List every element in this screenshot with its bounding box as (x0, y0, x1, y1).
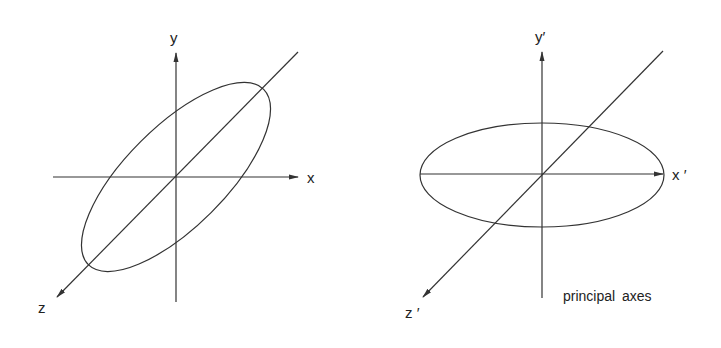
right-y-label: y′ (535, 29, 545, 44)
principal-axes-caption: principal axes (563, 289, 652, 303)
right-diagram (420, 51, 664, 298)
right-z-label: z ′ (405, 305, 419, 320)
left-x-label: x (307, 170, 315, 185)
right-x-label: x ′ (672, 167, 686, 182)
left-z-axis (57, 52, 298, 297)
left-z-label: z (38, 300, 46, 315)
left-diagram (53, 52, 299, 302)
left-y-label: y (170, 30, 178, 45)
